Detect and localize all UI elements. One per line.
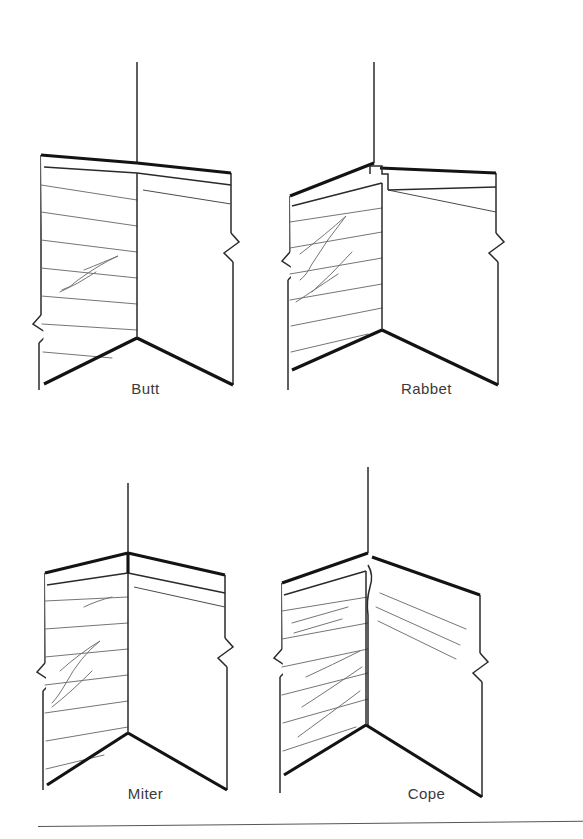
joint-figure-miter: Miter bbox=[0, 445, 291, 825]
rabbet-joint-drawing bbox=[270, 40, 583, 390]
miter-joint-drawing bbox=[0, 445, 291, 795]
right-board-bottom-edge bbox=[137, 338, 233, 385]
right-board-break-symbol bbox=[218, 638, 233, 667]
joint-figure-cope: Cope bbox=[270, 445, 583, 825]
right-board-break-symbol bbox=[473, 653, 488, 682]
right-board-top-far-edge bbox=[137, 163, 231, 173]
left-board-face bbox=[45, 573, 128, 785]
right-board-top-near-edge bbox=[137, 173, 231, 185]
joint-label-cope: Cope bbox=[270, 785, 583, 802]
right-board-top-far-edge bbox=[380, 168, 496, 173]
right-board-bottom-edge bbox=[128, 733, 227, 790]
left-board-top-far-edge bbox=[45, 553, 128, 573]
right-board-break-symbol bbox=[224, 233, 239, 262]
cope-joint-drawing bbox=[270, 445, 583, 795]
right-board-break-symbol bbox=[489, 233, 504, 262]
right-board-top-near-edge bbox=[128, 573, 225, 593]
joint-label-miter: Miter bbox=[0, 785, 291, 802]
right-board-surface-lines bbox=[143, 190, 231, 204]
right-board-top-near-edge bbox=[388, 187, 496, 190]
joint-label-butt: Butt bbox=[0, 380, 291, 397]
butt-joint-drawing bbox=[0, 40, 291, 390]
illustration-page: Butt bbox=[0, 0, 583, 839]
cope-scribe-lines bbox=[376, 593, 466, 659]
right-board-top-far-edge bbox=[128, 553, 225, 575]
joint-label-rabbet: Rabbet bbox=[270, 380, 583, 397]
left-board-face bbox=[282, 571, 368, 775]
right-board-bottom-edge bbox=[382, 330, 498, 385]
right-board-surface-lines bbox=[388, 190, 496, 212]
joint-figure-butt: Butt bbox=[0, 40, 291, 420]
right-board-top-far-edge bbox=[372, 557, 480, 595]
joint-figure-rabbet: Rabbet bbox=[270, 40, 583, 420]
